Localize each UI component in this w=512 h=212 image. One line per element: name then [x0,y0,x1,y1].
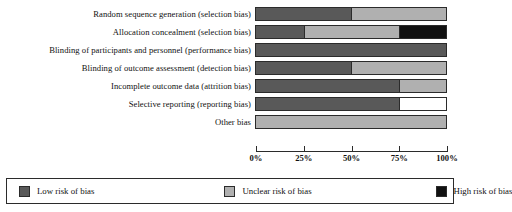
x-axis-tick [447,146,448,152]
stacked-bar-selective-reporting [255,97,447,111]
row-label-allocation-concealment: Allocation concealment (selection bias) [0,27,255,37]
x-axis-tick-label: 50% [343,153,360,164]
bar-segment-low [256,98,399,110]
row-label-blinding-outcome-assessment: Blinding of outcome assessment (detectio… [0,63,255,73]
table-row: Other bias [0,114,464,130]
legend-item-unclear-risk: Unclear risk of bias [224,179,311,203]
legend-label-low-risk: Low risk of bias [37,186,94,197]
bar-segment-low [256,26,304,38]
x-axis: 0%25%50%75%100% [255,146,449,172]
legend-item-high-risk: High risk of bias [436,179,512,203]
legend-swatch-high-risk [436,186,447,197]
row-label-blinding-participants-personnel: Blinding of participants and personnel (… [0,45,255,55]
table-row: Incomplete outcome data (attrition bias) [0,78,464,94]
legend-swatch-low-risk [19,186,30,197]
bar-segment-low [256,8,351,20]
row-label-random-sequence-generation: Random sequence generation (selection bi… [0,9,255,19]
legend-item-low-risk: Low risk of bias [19,179,94,203]
stacked-bar-blinding-participants-personnel [255,43,447,57]
row-label-incomplete-outcome-data: Incomplete outcome data (attrition bias) [0,81,255,91]
legend-swatch-unclear-risk [224,186,235,197]
bar-segment-unclear [304,26,399,38]
bar-segment-high [399,26,447,38]
table-row: Blinding of participants and personnel (… [0,42,464,58]
bars-area: Random sequence generation (selection bi… [0,6,464,132]
legend-label-high-risk: High risk of bias [454,186,512,197]
bar-segment-low [256,80,399,92]
stacked-bar-allocation-concealment [255,25,447,39]
bar-segment-low [256,44,446,56]
bar-segment-empty [399,98,447,110]
x-axis-tick-label: 75% [391,153,408,164]
x-axis-tick [352,146,353,152]
bar-segment-unclear [351,62,446,74]
x-axis-tick [256,146,257,152]
x-axis-tick-label: 25% [295,153,312,164]
row-label-selective-reporting: Selective reporting (reporting bias) [0,99,255,109]
legend-label-unclear-risk: Unclear risk of bias [242,186,311,197]
x-axis-tick-label: 0% [250,153,263,164]
stacked-bar-random-sequence-generation [255,7,447,21]
x-axis-tick [399,146,400,152]
x-axis-tick [304,146,305,152]
bar-segment-unclear [351,8,446,20]
legend: Low risk of bias Unclear risk of bias Hi… [6,178,454,204]
table-row: Selective reporting (reporting bias) [0,96,464,112]
stacked-bar-blinding-outcome-assessment [255,61,447,75]
row-label-other-bias: Other bias [0,117,255,127]
table-row: Random sequence generation (selection bi… [0,6,464,22]
bar-segment-unclear [399,80,447,92]
table-row: Blinding of outcome assessment (detectio… [0,60,464,76]
x-axis-tick-label: 100% [436,153,457,164]
stacked-bar-incomplete-outcome-data [255,79,447,93]
stacked-bar-other-bias [255,115,447,129]
bar-segment-unclear [256,116,446,128]
bar-segment-low [256,62,351,74]
table-row: Allocation concealment (selection bias) [0,24,464,40]
